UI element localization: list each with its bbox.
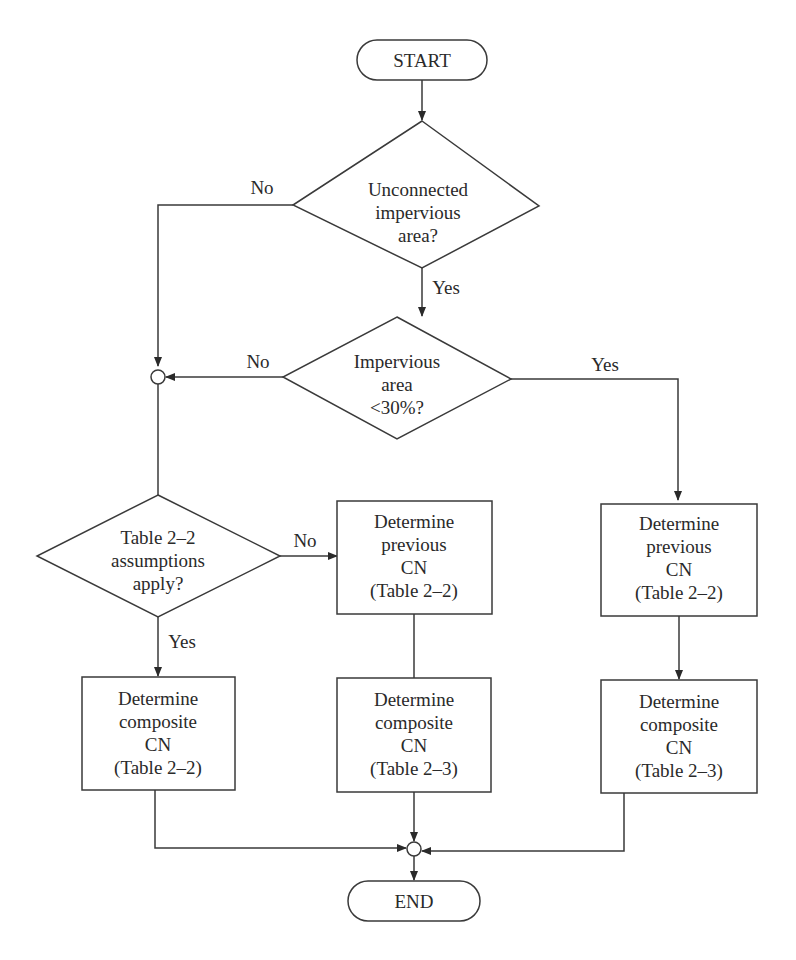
connector-comp-right-to-junction [422,793,624,851]
comp-cn-right-line3: CN [666,737,693,758]
decision-impervious-30: Impervious area <30%? [283,317,511,439]
decision-unconnected-line1: Unconnected [368,179,469,200]
decision-impervious-line1: Impervious [354,351,441,372]
connector-unconnected-no [158,205,293,366]
decision-assumptions-line2: assumptions [111,550,205,571]
comp-cn-mid-line3: CN [401,735,428,756]
label-unconnected-yes: Yes [432,277,460,298]
prev-cn-mid-line4: (Table 2–2) [370,580,458,602]
label-impervious-no: No [246,351,269,372]
prev-cn-right-line3: CN [666,559,693,580]
prev-cn-mid-line1: Determine [374,511,454,532]
decision-unconnected-line3: area? [398,225,438,246]
decision-assumptions-line1: Table 2–2 [120,527,195,548]
decision-unconnected-line2: impervious [375,202,461,223]
process-previous-cn-right: Determine previous CN (Table 2–2) [601,504,757,616]
label-unconnected-no: No [250,177,273,198]
comp-cn-left-line1: Determine [118,688,198,709]
decision-assumptions-line3: apply? [133,573,184,594]
process-composite-cn-left: Determine composite CN (Table 2–2) [82,677,235,790]
prev-cn-right-line2: previous [646,536,711,557]
junction-lower [407,842,421,856]
comp-cn-right-line2: composite [640,714,718,735]
comp-cn-left-line3: CN [145,734,172,755]
comp-cn-left-line2: composite [119,711,197,732]
decision-impervious-line3: <30%? [370,397,424,418]
comp-cn-left-line4: (Table 2–2) [114,757,202,779]
process-composite-cn-right: Determine composite CN (Table 2–3) [601,680,757,793]
label-impervious-yes: Yes [591,354,619,375]
comp-cn-right-line1: Determine [639,691,719,712]
connector-impervious-yes [511,379,678,500]
label-assumptions-no: No [293,530,316,551]
comp-cn-mid-line1: Determine [374,689,454,710]
start-terminal: START [357,40,487,80]
junction-upper [151,370,165,384]
connector-comp-left-to-junction [155,790,406,848]
start-label: START [393,50,451,71]
comp-cn-mid-line4: (Table 2–3) [370,758,458,780]
prev-cn-mid-line3: CN [401,557,428,578]
comp-cn-mid-line2: composite [375,712,453,733]
decision-unconnected-impervious: Unconnected impervious area? [293,121,539,268]
flowchart-canvas: START Unconnected impervious area? No Ye… [0,0,796,960]
end-terminal: END [348,881,480,921]
decision-table-assumptions: Table 2–2 assumptions apply? [37,495,280,617]
decision-impervious-line2: area [381,374,413,395]
process-previous-cn-middle: Determine previous CN (Table 2–2) [337,501,492,614]
prev-cn-right-line4: (Table 2–2) [635,582,723,604]
comp-cn-right-line4: (Table 2–3) [635,760,723,782]
end-label: END [394,891,433,912]
prev-cn-mid-line2: previous [381,534,446,555]
label-assumptions-yes: Yes [168,631,196,652]
process-composite-cn-middle: Determine composite CN (Table 2–3) [337,678,491,792]
prev-cn-right-line1: Determine [639,513,719,534]
